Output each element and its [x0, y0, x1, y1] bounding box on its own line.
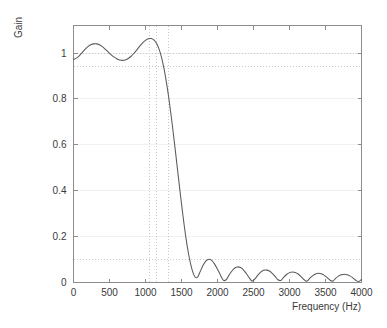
y-axis-tick-labels: 00.20.40.60.81: [53, 48, 67, 288]
x-tick-label: 1000: [134, 287, 157, 298]
y-tick-label: 0.2: [53, 231, 67, 242]
x-tick-label: 2000: [206, 287, 229, 298]
x-tick-label: 500: [101, 287, 118, 298]
x-tick-label: 0: [71, 287, 77, 298]
x-tick-label: 2500: [242, 287, 265, 298]
specification-guide-lines: [74, 26, 362, 283]
y-tick-label: 0.8: [53, 93, 67, 104]
y-tick-label: 0.6: [53, 139, 67, 150]
y-tick-label: 0: [61, 277, 67, 288]
gain-curve-path: [74, 38, 362, 281]
x-axis-title: Frequency (Hz): [292, 301, 361, 312]
x-axis-tick-labels: 05001000150020002500300035004000: [71, 287, 373, 298]
x-tick-label: 3500: [314, 287, 337, 298]
gain-response-curve: [74, 38, 362, 281]
x-tick-label: 1500: [170, 287, 193, 298]
tick-marks: [74, 26, 362, 283]
y-tick-label: 1: [61, 48, 67, 59]
axis-box: [74, 26, 362, 283]
x-tick-label: 4000: [350, 287, 373, 298]
y-axis-title: Gain: [13, 17, 24, 38]
figure-container: 05001000150020002500300035004000 00.20.4…: [0, 0, 387, 328]
faint-grid-lines: [74, 53, 362, 237]
x-tick-label: 3000: [278, 287, 301, 298]
frequency-response-chart: 05001000150020002500300035004000 00.20.4…: [0, 0, 387, 328]
y-tick-label: 0.4: [53, 185, 67, 196]
axes-frame: [74, 26, 362, 283]
